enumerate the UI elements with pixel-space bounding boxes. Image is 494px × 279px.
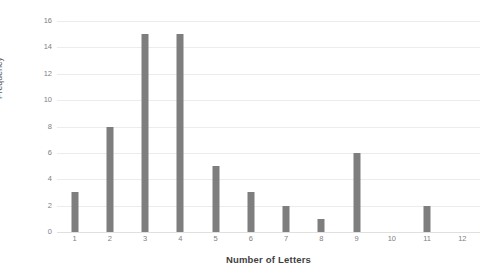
plot-area: 0246810121416	[57, 21, 480, 232]
y-tick-label: 4	[48, 176, 52, 184]
bar	[318, 219, 325, 232]
bar-slot	[445, 21, 480, 232]
x-tick-label: 3	[143, 235, 147, 243]
x-tick-label: 4	[178, 235, 182, 243]
bar	[177, 34, 184, 232]
x-tick-label: 10	[388, 235, 396, 243]
bar-slot	[198, 21, 233, 232]
bars	[57, 21, 480, 232]
x-tick-label: 1	[73, 235, 77, 243]
y-tick-label: 0	[48, 228, 52, 236]
bar-slot	[339, 21, 374, 232]
y-tick-label: 6	[48, 149, 52, 157]
bar	[424, 206, 431, 232]
x-axis-title: Number of Letters	[57, 254, 480, 265]
bar-slot	[410, 21, 445, 232]
bar	[247, 192, 254, 232]
bar	[106, 127, 113, 233]
bar-slot	[128, 21, 163, 232]
x-tick-label: 6	[249, 235, 253, 243]
bar-slot	[233, 21, 268, 232]
bar	[212, 166, 219, 232]
x-axis-tick-labels: 123456789101112	[57, 235, 480, 249]
bar	[353, 153, 360, 232]
x-tick-label: 9	[355, 235, 359, 243]
x-tick-label: 2	[108, 235, 112, 243]
bar-slot	[269, 21, 304, 232]
bar	[71, 192, 78, 232]
bar-chart: Frequency 0246810121416 123456789101112 …	[0, 0, 494, 279]
bar-slot	[92, 21, 127, 232]
y-tick-label: 16	[44, 17, 52, 25]
y-tick-label: 10	[44, 96, 52, 104]
x-tick-label: 5	[214, 235, 218, 243]
y-tick-label: 12	[44, 70, 52, 78]
bar-slot	[374, 21, 409, 232]
x-tick-label: 11	[423, 235, 431, 243]
x-tick-label: 7	[284, 235, 288, 243]
x-tick-label: 12	[458, 235, 466, 243]
y-tick-label: 2	[48, 202, 52, 210]
bar-slot	[163, 21, 198, 232]
bar-slot	[304, 21, 339, 232]
bar-slot	[57, 21, 92, 232]
y-tick-label: 14	[44, 44, 52, 52]
x-tick-label: 8	[319, 235, 323, 243]
gridline-y-0: 0	[57, 232, 480, 233]
y-tick-label: 8	[48, 123, 52, 131]
bar	[142, 34, 149, 232]
bar	[283, 206, 290, 232]
y-axis-title: Frequency	[0, 18, 4, 138]
